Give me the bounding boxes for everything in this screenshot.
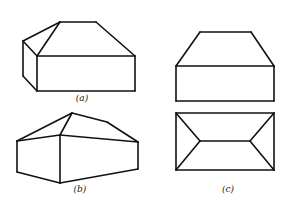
edge-line bbox=[251, 32, 274, 66]
panel-b-perspective-view bbox=[17, 113, 138, 183]
panel-a-oblique-view bbox=[23, 22, 135, 91]
edge-line bbox=[72, 113, 107, 122]
edge-line bbox=[23, 76, 37, 91]
caption-c: (c) bbox=[222, 184, 234, 194]
hipped-roof-diagram bbox=[0, 0, 294, 208]
caption-a: (a) bbox=[76, 93, 88, 103]
caption-b: (b) bbox=[74, 184, 87, 194]
edge-line bbox=[17, 172, 60, 183]
edge-line bbox=[60, 169, 138, 183]
edge-line bbox=[23, 41, 37, 56]
panel-c-orthographic-views bbox=[176, 32, 274, 170]
edge-line bbox=[250, 113, 274, 141]
edge-line bbox=[176, 141, 200, 170]
edge-line bbox=[250, 141, 274, 170]
edge-line bbox=[176, 113, 200, 141]
edge-line bbox=[60, 135, 138, 142]
edge-line bbox=[176, 32, 200, 66]
edge-line bbox=[96, 22, 135, 56]
